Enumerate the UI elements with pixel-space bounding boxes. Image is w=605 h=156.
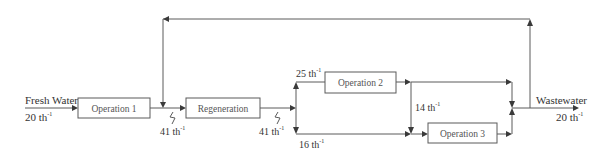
arrow-up-icon xyxy=(527,19,533,26)
to-op2-flow: 25 th-1 xyxy=(296,67,321,79)
op1-out-flow: 41 th-1 xyxy=(160,125,185,137)
to-op3-direct-stream: 16 th-1 xyxy=(296,131,428,150)
fresh-water-stream: Fresh Water 20 th-1 xyxy=(25,94,78,123)
arrow-right-icon xyxy=(506,79,512,85)
operation-1-label: Operation 1 xyxy=(91,104,136,114)
arrow-up-icon xyxy=(293,82,299,89)
regen-out-stream: 41 th-1 xyxy=(259,105,296,137)
to-op3-direct-flow: 16 th-1 xyxy=(299,138,324,150)
fresh-water-flow: 20 th-1 xyxy=(25,111,52,123)
wastewater-label: Wastewater xyxy=(536,94,587,106)
operation-2-unit: Operation 2 xyxy=(325,72,396,93)
arrow-right-icon xyxy=(422,131,428,137)
op1-to-regen-stream: 41 th-1 xyxy=(150,105,186,137)
fresh-water-label: Fresh Water xyxy=(25,94,78,106)
arrow-up-icon xyxy=(509,108,515,115)
regeneration-unit: Regeneration xyxy=(186,98,260,118)
stream-marker-icon xyxy=(170,112,175,124)
arrow-right-icon xyxy=(405,79,411,85)
stream-marker-icon xyxy=(275,112,280,124)
operation-2-label: Operation 2 xyxy=(338,78,383,88)
wastewater-flow: 20 th-1 xyxy=(556,111,583,123)
op3-out-stream xyxy=(497,131,512,137)
op2-out-stream xyxy=(396,79,512,85)
recycle-loop xyxy=(160,16,533,108)
arrow-down-icon xyxy=(160,102,166,108)
operation-1-unit: Operation 1 xyxy=(78,98,150,118)
regeneration-label: Regeneration xyxy=(198,104,249,114)
operation-3-label: Operation 3 xyxy=(440,129,485,139)
arrow-right-icon xyxy=(180,105,186,111)
arrow-right-icon xyxy=(506,131,512,137)
arrow-down-icon xyxy=(509,101,515,108)
water-network-diagram: Fresh Water 20 th-1 Operation 1 41 th-1 … xyxy=(0,0,605,156)
op2-to-op3-flow: 14 th-1 xyxy=(415,101,440,113)
arrow-right-icon xyxy=(290,105,296,111)
arrow-left-icon xyxy=(163,16,169,22)
arrow-down-icon xyxy=(293,127,299,134)
wastewater-stream: Wastewater 20 th-1 xyxy=(512,94,587,123)
regen-out-flow: 41 th-1 xyxy=(259,125,284,137)
operation-3-unit: Operation 3 xyxy=(428,123,497,143)
to-op2-stream: 25 th-1 xyxy=(296,67,325,82)
